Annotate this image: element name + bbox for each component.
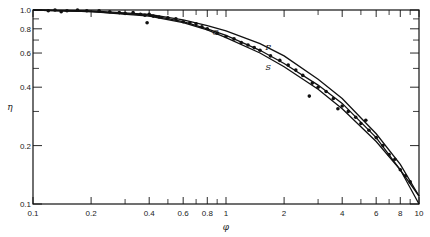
data-point [311, 81, 315, 85]
x-tick-label: 0.1 [27, 209, 39, 218]
x-tick-label: 8 [398, 209, 403, 218]
curve-label-C: C [212, 28, 218, 37]
x-axis-title: φ [223, 222, 230, 232]
y-tick-label: 0.1 [20, 200, 32, 209]
data-point [65, 9, 69, 13]
y-tick-label: 0.2 [20, 142, 32, 151]
data-point [286, 63, 290, 67]
y-tick-label: 0.8 [20, 25, 32, 34]
x-tick-label: 0.4 [144, 209, 156, 218]
data-point [174, 17, 178, 21]
data-point [145, 21, 149, 25]
x-tick-label: 1 [224, 209, 229, 218]
data-point [381, 144, 385, 148]
curve-label-S: S [265, 63, 271, 72]
data-point [143, 13, 147, 17]
data-point [393, 158, 397, 162]
data-point [166, 16, 170, 20]
curve-label-P: P [264, 43, 271, 52]
data-point [258, 49, 262, 53]
y-tick-label: 0.4 [20, 83, 32, 92]
data-point [118, 11, 122, 15]
data-point [85, 9, 89, 13]
data-point [131, 11, 135, 15]
data-point [200, 25, 204, 29]
data-point [147, 13, 151, 17]
data-point [269, 54, 273, 58]
data-point [316, 85, 320, 89]
data-point [252, 46, 256, 50]
data-point [324, 90, 328, 94]
x-tick-label: 6 [374, 209, 379, 218]
data-point [181, 20, 185, 24]
data-point [367, 128, 371, 132]
data-point [374, 136, 378, 140]
data-point [399, 168, 403, 172]
data-point [240, 41, 244, 45]
data-point [97, 9, 101, 13]
data-point [157, 15, 161, 19]
data-point [246, 43, 250, 47]
data-point [59, 10, 63, 14]
data-point [76, 8, 80, 12]
data-point [53, 8, 57, 12]
data-point [354, 116, 358, 120]
x-tick-label: 0.8 [202, 209, 214, 218]
plot-frame [33, 10, 419, 204]
curve-S [33, 10, 419, 204]
x-tick-label: 0.6 [178, 209, 190, 218]
data-point [206, 27, 210, 31]
data-point [139, 13, 143, 17]
data-point [123, 12, 127, 16]
x-tick-label: 0.2 [86, 209, 98, 218]
data-point [359, 122, 363, 126]
data-point [308, 94, 312, 98]
y-tick-label: 0.6 [20, 49, 32, 58]
y-tick-label: 1.0 [20, 6, 32, 15]
data-point [108, 10, 112, 14]
data-point [152, 14, 156, 18]
data-point [336, 107, 340, 111]
data-point [278, 59, 282, 63]
x-tick-label: 2 [282, 209, 287, 218]
data-point [232, 37, 236, 41]
data-point [408, 180, 412, 184]
y-axis-title: η [7, 102, 13, 112]
x-tick-label: 10 [415, 209, 424, 218]
data-point [194, 22, 198, 26]
data-point [294, 68, 298, 72]
log-log-plot: 0.10.20.40.60.812468100.10.20.40.60.81.0… [0, 0, 430, 237]
chart-container: 0.10.20.40.60.812468100.10.20.40.60.81.0… [0, 0, 430, 237]
data-point [224, 35, 228, 39]
data-point [347, 110, 351, 114]
data-point [404, 174, 408, 178]
data-point [188, 21, 192, 25]
data-point [387, 153, 391, 157]
x-tick-label: 4 [340, 209, 345, 218]
data-point [340, 104, 344, 108]
data-point [301, 74, 305, 78]
data-point [364, 119, 368, 123]
data-point [332, 97, 336, 101]
data-point [47, 9, 51, 13]
